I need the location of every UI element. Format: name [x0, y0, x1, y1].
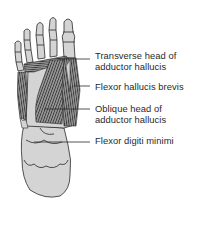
label-line: Flexor digiti minimi: [95, 136, 174, 147]
label-flexor-hallucis-brevis: Flexor hallucis brevis: [95, 82, 184, 93]
label-flexor-digiti-minimi: Flexor digiti minimi: [95, 136, 174, 147]
label-transverse-head-adductor-hallucis: Transverse head of adductor hallucis: [95, 51, 176, 72]
label-line: Transverse head of: [95, 51, 176, 62]
label-line: adductor hallucis: [95, 115, 166, 126]
flexor-hallucis-brevis-muscle: [62, 58, 80, 126]
label-line: Oblique head of: [95, 104, 166, 115]
label-line: Flexor hallucis brevis: [95, 82, 184, 93]
tarsal-bones: [21, 125, 70, 197]
label-line: adductor hallucis: [95, 62, 176, 73]
label-oblique-head-adductor-hallucis: Oblique head of adductor hallucis: [95, 104, 166, 125]
